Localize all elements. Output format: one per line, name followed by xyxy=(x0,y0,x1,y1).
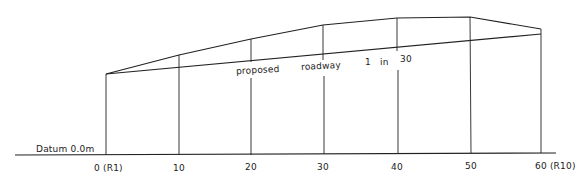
station-label: 20 xyxy=(245,162,257,172)
gradient-label-30: 30 xyxy=(400,54,412,64)
datum-label: Datum 0.0m xyxy=(36,144,94,154)
station-label: 0 (R1) xyxy=(94,163,123,173)
station-label: 10 xyxy=(173,163,185,173)
gradient-label-1: 1 xyxy=(365,57,371,67)
section-drawing xyxy=(0,0,579,188)
gradient-label-in: in xyxy=(380,57,389,67)
road-label-roadway: roadway xyxy=(301,60,341,72)
station-label: 30 xyxy=(317,162,329,172)
datum-line xyxy=(15,153,556,155)
station-label: 50 xyxy=(465,161,477,171)
station-label: 60 (R10) xyxy=(535,161,576,171)
station-ordinates xyxy=(106,17,541,155)
station-label: 40 xyxy=(391,162,403,172)
